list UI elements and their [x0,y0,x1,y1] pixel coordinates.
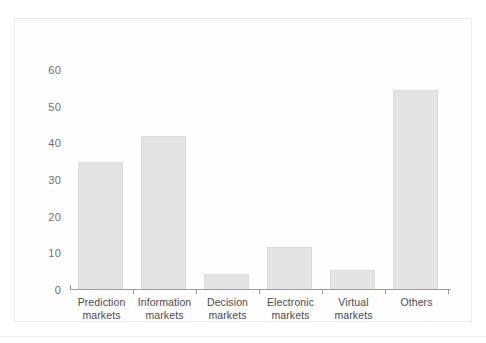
bar-prediction-markets[interactable] [78,162,123,290]
x-axis-label-line-1: Virtual [322,296,385,309]
page-edge-rule [0,336,486,337]
x-axis-label-virtual-markets: Virtual markets [322,296,385,322]
x-tick-mark-2 [196,290,197,294]
x-axis-label-line-1: Others [385,296,448,309]
bar-others[interactable] [393,90,438,290]
x-axis-label-line-2: markets [259,309,322,322]
x-axis-label-line-1: Electronic [259,296,322,309]
x-tick-mark-3 [259,290,260,294]
x-axis-label-line-2: markets [133,309,196,322]
y-tick-label-20: 20 [48,211,61,223]
x-axis-label-prediction-markets: Prediction markets [70,296,133,322]
x-axis-label-line-1: Information [133,296,196,309]
x-tick-mark-4 [322,290,323,294]
y-tick-label-50: 50 [48,101,61,113]
chart-frame: 60 50 40 30 20 10 0 Prediction markets [14,18,472,322]
y-tick-label-40: 40 [48,137,61,149]
x-axis-label-line-2: markets [196,309,259,322]
bar-decision-markets[interactable] [204,274,249,290]
x-axis-left-cap [70,285,71,290]
y-tick-label-10: 10 [48,247,61,259]
x-axis-label-electronic-markets: Electronic markets [259,296,322,322]
x-tick-mark-5 [385,290,386,294]
figure-canvas: 60 50 40 30 20 10 0 Prediction markets [0,0,486,343]
bar-electronic-markets[interactable] [267,247,312,290]
x-tick-mark-6 [448,290,449,294]
x-axis-label-information-markets: Information markets [133,296,196,322]
y-tick-label-60: 60 [48,64,61,76]
x-axis-line [70,289,451,290]
y-tick-label-30: 30 [48,174,61,186]
x-axis-label-decision-markets: Decision markets [196,296,259,322]
x-axis-label-line-2: markets [322,309,385,322]
bar-virtual-markets[interactable] [330,270,375,290]
x-axis-label-line-1: Decision [196,296,259,309]
x-tick-mark-1 [133,290,134,294]
plot-area: 60 50 40 30 20 10 0 [70,59,445,290]
y-tick-label-0: 0 [55,284,61,296]
x-axis-label-line-2: markets [70,309,133,322]
x-axis-label-line-1: Prediction [70,296,133,309]
x-axis-label-others: Others [385,296,448,309]
bar-information-markets[interactable] [141,136,186,290]
